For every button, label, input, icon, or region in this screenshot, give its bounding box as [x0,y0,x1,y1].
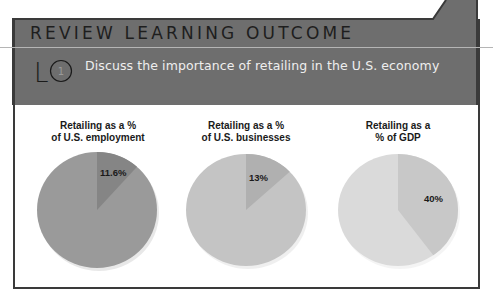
learning-outcome-text: Discuss the importance of retailing in t… [85,58,439,73]
learning-outcome-icon: L 1 [34,57,74,85]
pie-label-gdp: 40% [424,193,443,204]
pie-chart-gdp [336,152,462,272]
pie-label-businesses: 13% [249,172,268,183]
chart-title-line: Retailing as a [328,120,468,132]
pie-chart-businesses [184,152,310,272]
lo-letter-l: L [34,58,49,85]
pie-label-employment: 11.6% [100,167,126,178]
chart-title-line: % of GDP [328,132,468,144]
chart-title-line: of U.S. businesses [176,132,316,144]
pie-chart-employment [35,150,161,272]
chart-title-line: Retailing as a % [176,120,316,132]
chart-title-line: of U.S. employment [28,132,168,144]
lo-number: 1 [58,66,64,77]
chart-title-businesses: Retailing as a % of U.S. businesses [176,120,316,144]
chart-title-gdp: Retailing as a % of GDP [328,120,468,144]
divider-line [0,47,493,48]
chart-title-employment: Retailing as a % of U.S. employment [28,120,168,144]
section-title: REVIEW LEARNING OUTCOME [30,23,354,43]
chart-title-line: Retailing as a % [28,120,168,132]
